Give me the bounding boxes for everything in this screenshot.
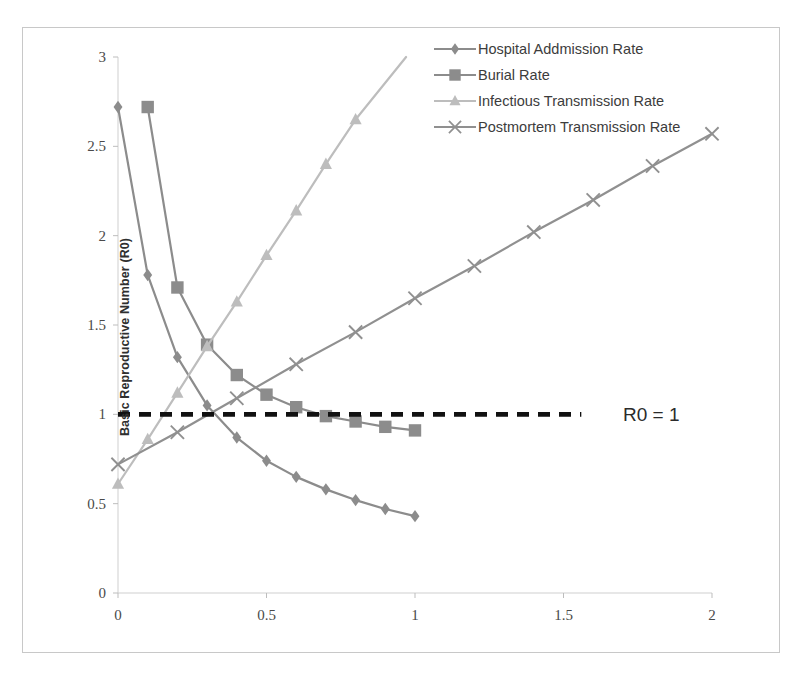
data-point-square: [231, 369, 243, 381]
data-point-square: [409, 424, 421, 436]
data-point-diamond: [114, 101, 123, 113]
data-point-diamond: [262, 455, 271, 467]
legend-item[interactable]: Postmortem Transmission Rate: [432, 114, 762, 140]
legend-item[interactable]: Burial Rate: [432, 62, 762, 88]
y-tick-label: 0: [99, 585, 107, 602]
y-tick-label: 0.5: [87, 495, 106, 512]
legend-label: Burial Rate: [478, 68, 550, 83]
data-point-cross: [646, 159, 659, 172]
data-point-cross: [408, 292, 421, 305]
y-tick-label: 3: [99, 49, 107, 66]
data-point-cross: [468, 259, 481, 272]
y-tick-label: 2.5: [87, 138, 106, 155]
data-point-cross: [349, 326, 362, 339]
legend-item[interactable]: Infectious Transmission Rate: [432, 88, 762, 114]
y-tick-label: 2: [99, 227, 107, 244]
data-point-cross: [171, 426, 184, 439]
y-axis-title: Basic Reproductive Number (R0): [118, 238, 132, 436]
series-2: [112, 57, 406, 489]
chart-legend: Hospital Addmission RateBurial RateInfec…: [432, 36, 762, 140]
data-point-cross: [230, 392, 243, 405]
data-point-square: [379, 421, 391, 433]
data-point-diamond: [321, 483, 330, 495]
series-1: [142, 101, 422, 437]
data-point-diamond: [292, 471, 301, 483]
data-point-square: [290, 401, 302, 413]
x-tick-label: 1: [411, 607, 419, 624]
data-point-diamond: [411, 510, 420, 522]
y-tick-label: 1.5: [87, 317, 106, 334]
data-point-cross: [290, 358, 303, 371]
data-point-cross: [587, 193, 600, 206]
legend-item[interactable]: Hospital Addmission Rate: [432, 36, 762, 62]
x-tick-label: 1.5: [554, 607, 573, 624]
series-0: [114, 101, 420, 523]
legend-label: Hospital Addmission Rate: [478, 42, 643, 57]
x-tick-label: 2: [708, 607, 716, 624]
legend-marker-cross-icon: [432, 117, 478, 137]
data-point-cross: [527, 225, 540, 238]
legend-marker-square-icon: [432, 65, 478, 85]
data-point-square: [171, 281, 183, 293]
data-point-square: [260, 388, 272, 400]
x-tick-label: 0: [114, 607, 122, 624]
data-point-square: [142, 101, 154, 113]
chart-figure: 00.511.522.5300.511.52 Basic Reproductiv…: [0, 0, 800, 674]
r0-annotation-label: R0 = 1: [623, 404, 680, 426]
y-tick-label: 1: [99, 406, 107, 423]
legend-marker-triangle-icon: [432, 91, 478, 111]
legend-label: Postmortem Transmission Rate: [478, 120, 680, 135]
data-point-square: [349, 415, 361, 427]
data-point-diamond: [351, 494, 360, 506]
data-point-diamond: [381, 503, 390, 515]
legend-marker-diamond-icon: [432, 39, 478, 59]
data-point-diamond: [451, 43, 459, 54]
data-point-square: [449, 69, 460, 80]
legend-label: Infectious Transmission Rate: [478, 94, 664, 109]
data-point-diamond: [143, 269, 152, 281]
x-tick-label: 0.5: [257, 607, 276, 624]
